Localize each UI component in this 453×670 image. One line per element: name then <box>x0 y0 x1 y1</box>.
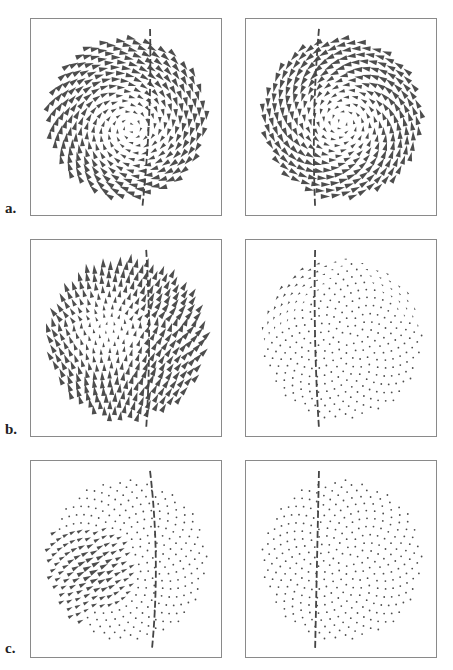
glyph-triangle <box>97 545 104 550</box>
glyph-triangle <box>152 402 159 411</box>
glyph-dot <box>359 594 361 596</box>
glyph-triangle <box>340 110 345 112</box>
glyph-dot <box>327 306 329 308</box>
glyph-triangle <box>377 158 384 167</box>
glyph-triangle <box>46 113 52 123</box>
glyph-dot <box>356 490 358 492</box>
glyph-dot <box>388 384 390 386</box>
glyph-triangle <box>128 183 138 188</box>
glyph-dot <box>280 358 282 360</box>
glyph-dot <box>284 352 286 354</box>
glyph-dot <box>308 359 310 361</box>
glyph-triangle <box>115 193 125 199</box>
glyph-triangle <box>294 284 298 287</box>
glyph-triangle <box>58 111 64 121</box>
glyph-dot <box>152 557 154 559</box>
glyph-triangle <box>363 155 370 162</box>
glyph-triangle <box>91 88 100 94</box>
glyph-dot <box>284 608 286 610</box>
glyph-triangle <box>182 331 190 340</box>
glyph-dot <box>183 611 185 613</box>
glyph-dot <box>304 324 306 326</box>
glyph-triangle <box>411 84 419 93</box>
glyph-dot <box>119 514 121 516</box>
glyph-dot <box>311 368 313 370</box>
glyph-dot <box>390 333 392 335</box>
glyph-triangle <box>93 173 101 182</box>
glyph-dot <box>273 538 275 540</box>
glyph-triangle <box>45 548 51 552</box>
glyph-triangle <box>85 557 93 563</box>
glyph-triangle <box>125 274 130 284</box>
glyph-triangle <box>372 282 374 284</box>
glyph-dot <box>147 550 149 552</box>
glyph-dot <box>139 546 141 548</box>
glyph-dot <box>182 529 184 531</box>
glyph-dot <box>346 538 348 540</box>
glyph-dot <box>332 337 334 339</box>
glyph-triangle <box>113 273 118 282</box>
glyph-dot <box>418 352 420 354</box>
glyph-triangle <box>378 76 387 83</box>
glyph-dot <box>141 601 143 603</box>
glyph-dot <box>126 486 128 488</box>
glyph-triangle <box>366 147 372 154</box>
glyph-triangle <box>55 578 61 582</box>
glyph-triangle <box>335 144 341 147</box>
glyph-dot <box>108 495 110 497</box>
glyph-dot <box>102 484 104 486</box>
glyph-dot <box>340 357 342 359</box>
glyph-triangle <box>116 399 121 409</box>
glyph-triangle <box>361 46 370 51</box>
glyph-triangle <box>114 376 119 385</box>
glyph-triangle <box>407 152 412 162</box>
glyph-triangle <box>119 362 123 370</box>
glyph-dot <box>345 391 347 393</box>
glyph-triangle <box>159 90 165 98</box>
glyph-triangle <box>296 157 305 164</box>
glyph-dot <box>94 499 96 501</box>
glyph-dot <box>297 363 299 365</box>
glyph-triangle <box>69 585 76 590</box>
glyph-triangle <box>125 309 129 315</box>
glyph-triangle <box>325 64 334 70</box>
glyph-dot <box>303 506 305 508</box>
glyph-triangle <box>120 269 125 279</box>
glyph-dot <box>125 510 127 512</box>
glyph-triangle <box>411 131 416 140</box>
glyph-triangle <box>129 565 135 569</box>
glyph-dot <box>198 552 200 554</box>
glyph-triangle <box>162 159 171 166</box>
glyph-dot <box>370 329 372 331</box>
glyph-triangle <box>337 127 341 129</box>
glyph-triangle <box>321 194 330 199</box>
glyph-dot <box>356 380 358 382</box>
glyph-dot <box>395 604 397 606</box>
glyph-dot <box>326 611 328 613</box>
glyph-dot <box>352 587 354 589</box>
glyph-dot <box>346 565 348 567</box>
glyph-triangle <box>138 158 145 162</box>
glyph-dot <box>141 490 143 492</box>
glyph-triangle <box>372 48 382 53</box>
glyph-dot <box>172 531 174 533</box>
glyph-dot <box>162 620 164 622</box>
glyph-triangle <box>400 155 405 165</box>
glyph-triangle <box>366 90 374 96</box>
glyph-triangle <box>354 85 362 89</box>
glyph-dot <box>300 602 302 604</box>
glyph-triangle <box>116 349 119 355</box>
glyph-triangle <box>172 329 180 338</box>
glyph-triangle <box>122 542 127 546</box>
glyph-dot <box>302 317 304 319</box>
glyph-triangle <box>83 289 87 297</box>
glyph-triangle <box>137 45 147 51</box>
glyph-dot <box>172 564 174 566</box>
glyph-triangle <box>293 60 301 69</box>
glyph-dot <box>351 532 353 534</box>
glyph-triangle <box>185 311 193 320</box>
glyph-triangle <box>317 289 319 291</box>
glyph-triangle <box>93 329 96 334</box>
glyph-dot <box>321 323 323 325</box>
glyph-triangle <box>398 285 401 288</box>
